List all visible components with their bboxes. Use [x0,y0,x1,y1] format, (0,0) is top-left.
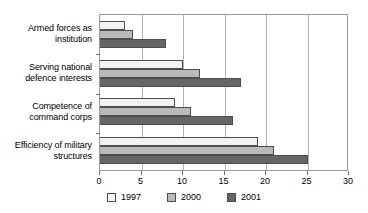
bar-row [100,30,347,39]
x-axis-tick-label: 15 [218,176,228,186]
bar-2000[interactable] [100,107,191,116]
bar-2001[interactable] [100,155,308,164]
bar-1997[interactable] [100,21,125,30]
bar-row [100,107,347,116]
bar-row [100,78,347,87]
x-axis-tick [348,171,349,175]
y-axis-tick [96,94,100,95]
y-axis-tick [96,54,100,55]
legend-label: 1997 [121,192,141,202]
x-axis-tick [265,171,266,175]
x-axis-tick [307,171,308,175]
x-axis-tick-label: 0 [96,176,101,186]
bar-row [100,21,347,30]
category-slot: Competence of command corps [0,93,96,132]
bar-1997[interactable] [100,60,183,69]
legend-item-1997[interactable]: 1997 [107,192,141,202]
bar-2000[interactable] [100,146,274,155]
bar-chart: Armed forces as institution Serving nati… [0,0,368,213]
bar-groups [100,15,347,170]
legend-swatch-icon [107,193,116,202]
x-axis-tick-label: 5 [138,176,143,186]
bar-1997[interactable] [100,137,258,146]
x-axis-tick [99,171,100,175]
category-label-serving-national-defence-interests: Serving national defence interests [25,62,96,84]
plot-area [99,14,348,171]
x-axis-tick-label: 30 [343,176,353,186]
bar-row [100,155,347,164]
bar-group [100,93,347,132]
bar-1997[interactable] [100,98,175,107]
bar-group [100,54,347,93]
bar-row [100,137,347,146]
bar-row [100,98,347,107]
bar-group [100,15,347,54]
x-axis-tick [141,171,142,175]
x-axis-tick-label: 25 [301,176,311,186]
category-slot: Efficiency of military structures [0,132,96,171]
legend-item-2001[interactable]: 2001 [227,192,261,202]
category-label-armed-forces-as-institution: Armed forces as institution [28,23,96,45]
legend-swatch-icon [167,193,176,202]
category-axis: Armed forces as institution Serving nati… [0,14,96,171]
category-slot: Serving national defence interests [0,53,96,92]
legend-swatch-icon [227,193,236,202]
bar-2001[interactable] [100,78,241,87]
x-axis-tick-label: 10 [177,176,187,186]
bar-row [100,146,347,155]
category-label-efficiency-of-military-structures: Efficiency of military structures [15,140,96,162]
bar-row [100,39,347,48]
bar-2001[interactable] [100,116,233,125]
category-slot: Armed forces as institution [0,14,96,53]
legend-item-2000[interactable]: 2000 [167,192,201,202]
bar-2001[interactable] [100,39,166,48]
bar-row [100,60,347,69]
y-axis-tick [96,133,100,134]
legend-label: 2001 [241,192,261,202]
x-axis-tick [182,171,183,175]
x-axis-tick-label: 20 [260,176,270,186]
bar-2000[interactable] [100,69,200,78]
category-label-competence-of-command-corps: Competence of command corps [29,101,96,123]
bar-row [100,69,347,78]
bar-group [100,131,347,170]
bar-row [100,116,347,125]
x-axis: 051015202530 [99,171,348,189]
x-axis-tick [224,171,225,175]
legend: 1997 2000 2001 [0,192,368,202]
legend-label: 2000 [181,192,201,202]
bar-2000[interactable] [100,30,133,39]
